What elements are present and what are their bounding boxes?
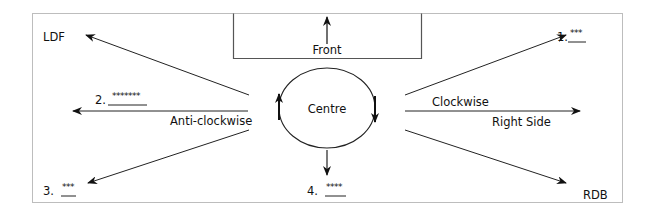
blank-4: 4. **** — [307, 182, 346, 198]
arrow-rdb — [405, 130, 566, 183]
blank-3-number: 3. — [43, 184, 54, 198]
ldf-label: LDF — [43, 30, 65, 44]
blank-3: 3. *** — [43, 182, 76, 198]
blank-4-answer: **** — [326, 182, 343, 192]
arrow-ldf — [86, 35, 249, 95]
right-side-label: Right Side — [492, 115, 551, 129]
centre-label: Centre — [308, 102, 346, 116]
arrow-3 — [88, 130, 249, 183]
blank-1: 1. *** — [557, 28, 586, 44]
front-box: Front — [234, 14, 422, 59]
blank-4-number: 4. — [307, 184, 318, 198]
clockwise-label: Clockwise — [432, 95, 489, 109]
movement-diagram: Front Centre LDF RDB Anti-clockwise Cloc… — [0, 0, 651, 215]
blank-2: 2. ******* — [95, 91, 147, 107]
blank-3-answer: *** — [62, 182, 75, 192]
blank-1-number: 1. — [557, 30, 568, 44]
blank-2-number: 2. — [95, 93, 106, 107]
arrow-1 — [405, 35, 566, 95]
blank-2-answer: ******* — [112, 91, 141, 101]
blank-1-answer: *** — [570, 28, 583, 38]
centre-circle: Centre — [279, 68, 375, 148]
anticlockwise-label: Anti-clockwise — [170, 114, 252, 128]
rdb-label: RDB — [583, 188, 608, 202]
front-label: Front — [312, 43, 342, 57]
